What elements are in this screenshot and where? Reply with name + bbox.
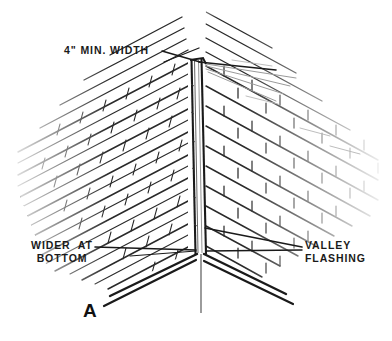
callout-wider-at-bottom: WIDER ATBOTTOM [14, 239, 110, 264]
figure-letter-label: A [83, 300, 97, 322]
valley-flashing-drawing [0, 0, 392, 341]
callout-valley-flashing: VALLEYFLASHING [305, 239, 366, 264]
callout-min-width: 4" MIN. WIDTH [64, 44, 149, 57]
callout-valley-flashing-line2: FLASHING [305, 252, 366, 264]
callout-wider-at-bottom-line2: BOTTOM [37, 252, 88, 264]
roof-valley-figure: 4" MIN. WIDTH WIDER ATBOTTOM VALLEYFLASH… [0, 0, 392, 341]
callout-valley-flashing-line1: VALLEY [305, 239, 351, 251]
callout-wider-at-bottom-line1: WIDER AT [31, 239, 93, 251]
